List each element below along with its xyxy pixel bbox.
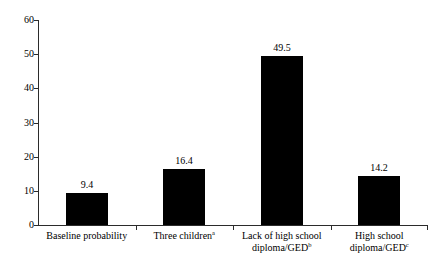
x-category-footnote-3: c xyxy=(406,241,409,248)
bar-value-label-1: 16.4 xyxy=(175,155,193,167)
bar-value-label-3: 14.2 xyxy=(370,162,388,174)
y-tick-label-50: 50 xyxy=(24,47,34,60)
x-category-label-3: High school diploma/GEDc xyxy=(331,230,429,254)
bar-value-label-2: 49.5 xyxy=(273,42,291,54)
y-tick-label-40: 40 xyxy=(24,81,34,94)
y-tick-label-0: 0 xyxy=(29,218,34,231)
plot-area: 0 10 20 30 40 50 60 xyxy=(38,20,428,226)
x-category-footnote-1: a xyxy=(212,229,215,236)
bar-chart-figure: 0 10 20 30 40 50 60 xyxy=(0,0,432,276)
x-category-text-2-line2: diploma/GED xyxy=(252,242,308,253)
x-category-text-3-line2: diploma/GED xyxy=(350,242,406,253)
y-tick-label-10: 10 xyxy=(24,184,34,197)
x-category-label-0: Baseline probability xyxy=(38,230,136,242)
x-category-text-0: Baseline probability xyxy=(46,230,127,241)
bar-lack-of-high-school-diploma-ged: 49.5 xyxy=(261,56,303,225)
bar-three-children: 16.4 xyxy=(163,169,205,225)
y-axis-line xyxy=(38,20,39,226)
x-category-text-2-line1: Lack of high school xyxy=(242,230,322,241)
bar-value-label-0: 9.4 xyxy=(81,179,94,191)
x-category-label-1: Three childrena xyxy=(136,230,234,242)
bar-high-school-diploma-ged: 14.2 xyxy=(358,176,400,225)
x-category-text-3-line1: High school xyxy=(355,230,404,241)
y-tick-label-20: 20 xyxy=(24,150,34,163)
cropped-title-remnant xyxy=(63,0,313,3)
bar-baseline-probability: 9.4 xyxy=(66,193,108,225)
y-tick-label-60: 60 xyxy=(24,13,34,26)
y-tick-label-30: 30 xyxy=(24,116,34,129)
x-category-text-1: Three children xyxy=(154,230,213,241)
x-category-label-2: Lack of high school diploma/GEDb xyxy=(233,230,331,254)
x-category-footnote-2: b xyxy=(308,241,311,248)
